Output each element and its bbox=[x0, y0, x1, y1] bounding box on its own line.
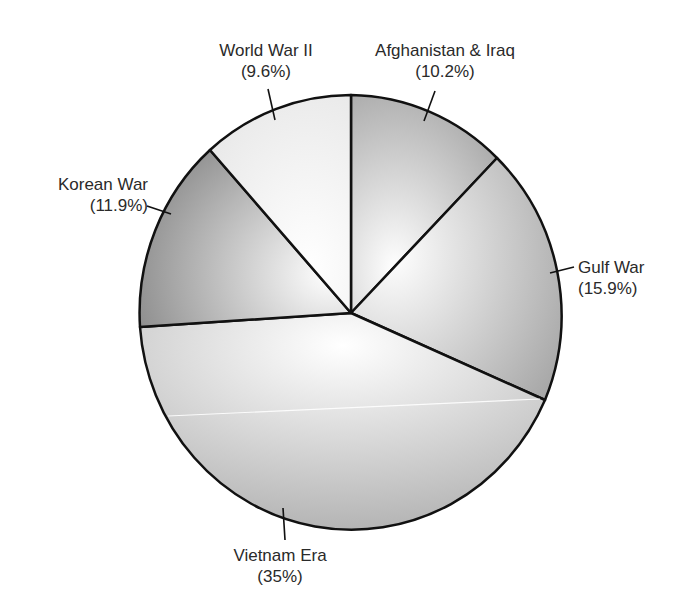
label-percent: (11.9%) bbox=[28, 195, 148, 216]
label-percent: (9.6%) bbox=[196, 61, 336, 82]
label-name: Afghanistan & Iraq bbox=[350, 40, 540, 61]
label-name: Korean War bbox=[28, 174, 148, 195]
label-gulf-war: Gulf War (15.9%) bbox=[578, 257, 668, 299]
label-afghanistan-iraq: Afghanistan & Iraq (10.2%) bbox=[350, 40, 540, 82]
label-name: Gulf War bbox=[578, 257, 668, 278]
label-percent: (35%) bbox=[205, 566, 355, 587]
label-korean-war: Korean War (11.9%) bbox=[28, 174, 148, 216]
label-world-war-ii: World War II (9.6%) bbox=[196, 40, 336, 82]
label-percent: (10.2%) bbox=[350, 61, 540, 82]
label-name: Vietnam Era bbox=[205, 545, 355, 566]
label-vietnam-era: Vietnam Era (35%) bbox=[205, 545, 355, 587]
label-name: World War II bbox=[196, 40, 336, 61]
label-percent: (15.9%) bbox=[578, 278, 668, 299]
pie-chart bbox=[0, 0, 682, 599]
